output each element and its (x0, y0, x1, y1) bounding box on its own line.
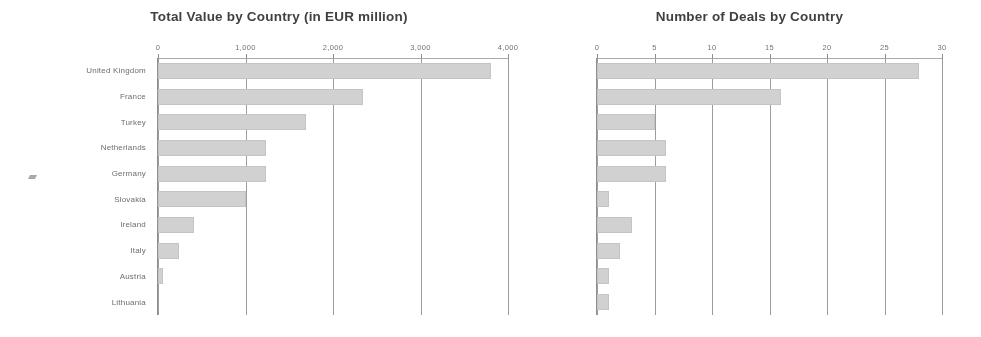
bar[interactable] (597, 63, 919, 79)
bars-number-of-deals (597, 58, 942, 315)
category-label: Italy (0, 238, 152, 264)
category-label: Austria (0, 264, 152, 290)
axis-tick-mark (508, 54, 509, 58)
bar[interactable] (158, 166, 266, 182)
bar-row[interactable] (158, 161, 508, 187)
axis-tick-mark (942, 54, 943, 58)
bar-row[interactable] (597, 135, 942, 161)
gridline (942, 58, 943, 315)
bar[interactable] (597, 294, 609, 310)
bar-row[interactable] (158, 238, 508, 264)
bar-row[interactable] (158, 264, 508, 290)
bar[interactable] (158, 114, 306, 130)
bar-row[interactable] (597, 186, 942, 212)
chart-title-number-of-deals: Number of Deals by Country (540, 9, 981, 24)
category-label: Slovakia (0, 186, 152, 212)
bar-row[interactable] (597, 84, 942, 110)
axis-tick-label: 2,000 (323, 43, 343, 52)
category-label: Lithuania (0, 289, 152, 315)
bar-row[interactable] (597, 264, 942, 290)
gridline (508, 58, 509, 315)
category-label: France (0, 84, 152, 110)
bar-row[interactable] (158, 212, 508, 238)
bar[interactable] (158, 217, 194, 233)
category-axis-labels: United KingdomFranceTurkeyNetherlandsGer… (0, 58, 152, 315)
number-of-deals-plot-area: 051015202530 (596, 58, 942, 315)
axis-tick-label: 25 (880, 43, 889, 52)
bar[interactable] (597, 191, 609, 207)
category-label: Ireland (0, 212, 152, 238)
bar-row[interactable] (158, 58, 508, 84)
axis-tick-label: 10 (708, 43, 717, 52)
bar-row[interactable] (597, 109, 942, 135)
axis-tick-label: 20 (823, 43, 832, 52)
bar[interactable] (158, 89, 363, 105)
bar[interactable] (597, 166, 666, 182)
bar-row[interactable] (597, 58, 942, 84)
bar[interactable] (597, 140, 666, 156)
bar[interactable] (158, 243, 179, 259)
category-label: Turkey (0, 109, 152, 135)
category-label: United Kingdom (0, 58, 152, 84)
charts-page: Total Value by Country (in EUR million) … (0, 0, 981, 337)
axis-tick-label: 5 (652, 43, 656, 52)
bar-row[interactable] (158, 186, 508, 212)
bar[interactable] (597, 217, 632, 233)
bar-row[interactable] (597, 212, 942, 238)
bar[interactable] (158, 191, 246, 207)
bar-row[interactable] (597, 161, 942, 187)
axis-tick-label: 30 (938, 43, 947, 52)
bar-row[interactable] (158, 84, 508, 110)
bar[interactable] (597, 243, 620, 259)
bar-row[interactable] (158, 109, 508, 135)
axis-tick-label: 0 (595, 43, 599, 52)
axis-tick-label: 0 (156, 43, 160, 52)
category-label: Netherlands (0, 135, 152, 161)
bars-total-value (158, 58, 508, 315)
chart-title-total-value: Total Value by Country (in EUR million) (0, 9, 540, 24)
number-of-deals-chart-panel: Number of Deals by Country 051015202530 (540, 0, 981, 337)
bar-row[interactable] (158, 135, 508, 161)
bar[interactable] (597, 114, 655, 130)
bar[interactable] (158, 268, 163, 284)
category-label: Germany (0, 161, 152, 187)
bar[interactable] (158, 63, 491, 79)
bar-row[interactable] (597, 238, 942, 264)
bar[interactable] (158, 140, 266, 156)
total-value-plot-area: 01,0002,0003,0004,000 (157, 58, 508, 315)
bar[interactable] (597, 268, 609, 284)
axis-tick-label: 1,000 (235, 43, 255, 52)
total-value-chart-panel: Total Value by Country (in EUR million) … (0, 0, 540, 337)
bar[interactable] (597, 89, 781, 105)
axis-tick-label: 15 (765, 43, 774, 52)
bar-row[interactable] (597, 289, 942, 315)
axis-tick-label: 3,000 (410, 43, 430, 52)
axis-tick-label: 4,000 (498, 43, 518, 52)
bar-row[interactable] (158, 289, 508, 315)
